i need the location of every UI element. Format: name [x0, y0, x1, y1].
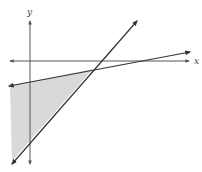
- x-axis-label: x: [194, 56, 199, 66]
- shaded-region: [10, 69, 93, 161]
- shallow-line: [9, 52, 190, 86]
- inequality-graph: y x: [0, 0, 202, 172]
- y-axis-label: y: [26, 7, 33, 17]
- graph-canvas: y x: [0, 0, 202, 172]
